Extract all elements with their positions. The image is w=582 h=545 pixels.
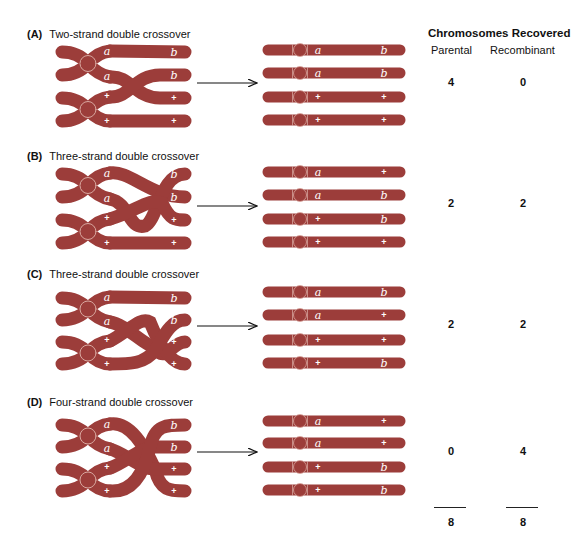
gene-allele-label: a	[104, 167, 111, 180]
wildtype-allele-label: +	[171, 116, 176, 126]
tetrad-diagram-b	[62, 173, 185, 243]
tetrad-diagram-a	[62, 51, 185, 121]
gene-allele-label: b	[380, 189, 387, 202]
gene-allele-label: a	[315, 309, 322, 322]
product-chromosome: a+	[268, 309, 400, 323]
gene-allele-label: b	[380, 286, 387, 299]
gene-allele-label: a	[104, 315, 111, 328]
wildtype-allele-label: +	[315, 214, 320, 224]
product-chromosome: ++	[268, 91, 400, 104]
wildtype-allele-label: +	[171, 464, 176, 474]
wildtype-allele-label: +	[171, 486, 176, 496]
gene-allele-label: b	[380, 357, 387, 370]
wildtype-allele-label: +	[315, 92, 320, 102]
wildtype-allele-label: +	[315, 485, 320, 495]
product-chromosome: a+	[268, 437, 400, 451]
wildtype-allele-label: +	[171, 93, 176, 103]
wildtype-allele-label: +	[104, 462, 109, 472]
gene-allele-label: a	[315, 437, 322, 450]
product-chromosome: ab	[268, 67, 400, 81]
wildtype-allele-label: +	[381, 237, 386, 247]
gene-allele-label: b	[170, 168, 177, 181]
product-chromosome: +b	[268, 357, 400, 371]
gene-allele-label: b	[170, 46, 177, 59]
gene-allele-label: b	[170, 69, 177, 82]
gene-allele-label: a	[104, 291, 111, 304]
crossover-figure: abab++++a+ab+b++aba++++ba+a++b+b aa++bb+…	[0, 0, 582, 545]
gene-allele-label: b	[170, 191, 177, 204]
product-chromosome: a+	[268, 415, 400, 429]
wildtype-allele-label: +	[315, 358, 320, 368]
product-chromosome: +b	[268, 461, 400, 475]
centromere-icon	[80, 345, 96, 361]
product-chromosome: +b	[268, 484, 400, 498]
wildtype-allele-label: +	[381, 92, 386, 102]
wildtype-allele-label: +	[381, 335, 386, 345]
wildtype-allele-label: +	[104, 359, 109, 369]
gene-allele-label: a	[315, 166, 322, 179]
wildtype-allele-label: +	[104, 335, 109, 345]
gene-allele-label: a	[104, 418, 111, 431]
product-chromosome: a+	[268, 166, 400, 180]
centromere-icon	[80, 56, 96, 72]
wildtype-allele-label: +	[381, 438, 386, 448]
product-chromosome: ab	[268, 286, 400, 300]
gene-allele-label: b	[380, 67, 387, 80]
product-chromosome: +b	[268, 213, 400, 227]
gene-allele-label: a	[315, 44, 322, 57]
product-chromosome: ++	[268, 114, 400, 127]
tetrad-diagram-c	[62, 297, 185, 364]
centromere-icon	[80, 301, 96, 317]
gene-allele-label: a	[315, 286, 322, 299]
centromere-icon	[80, 102, 96, 118]
gene-allele-label: a	[104, 192, 111, 205]
wildtype-allele-label: +	[315, 335, 320, 345]
gene-allele-label: b	[380, 213, 387, 226]
wildtype-allele-label: +	[171, 215, 176, 225]
wildtype-allele-label: +	[315, 115, 320, 125]
wildtype-allele-label: +	[381, 167, 386, 177]
product-chromosome: ++	[268, 334, 400, 347]
gene-allele-label: a	[104, 45, 111, 58]
gene-allele-label: b	[170, 314, 177, 327]
wildtype-allele-label: +	[381, 416, 386, 426]
wildtype-allele-label: +	[104, 91, 109, 101]
wildtype-allele-label: +	[381, 310, 386, 320]
product-chromosome: ab	[268, 189, 400, 203]
centromere-icon	[80, 428, 96, 444]
gene-allele-label: a	[315, 189, 322, 202]
gene-allele-label: a	[104, 442, 111, 455]
wildtype-allele-label: +	[104, 486, 109, 496]
gene-allele-label: b	[380, 484, 387, 497]
wildtype-allele-label: +	[171, 238, 176, 248]
wildtype-allele-label: +	[381, 115, 386, 125]
wildtype-allele-label: +	[171, 359, 176, 369]
centromere-icon	[80, 178, 96, 194]
wildtype-allele-label: +	[104, 213, 109, 223]
product-chromosome: ab	[268, 44, 400, 58]
gene-allele-label: a	[315, 415, 322, 428]
wildtype-allele-label: +	[315, 462, 320, 472]
tetrad-diagram-d	[62, 424, 185, 491]
wildtype-allele-label: +	[315, 237, 320, 247]
wildtype-allele-label: +	[104, 116, 109, 126]
gene-allele-label: b	[380, 461, 387, 474]
wildtype-allele-label: +	[171, 337, 176, 347]
product-chromosome: ++	[268, 236, 400, 249]
gene-allele-label: b	[170, 441, 177, 454]
gene-allele-label: a	[315, 67, 322, 80]
centromere-icon	[80, 224, 96, 240]
centromere-icon	[80, 472, 96, 488]
gene-allele-label: b	[170, 419, 177, 432]
gene-allele-label: b	[380, 44, 387, 57]
gene-allele-label: b	[170, 292, 177, 305]
wildtype-allele-label: +	[104, 238, 109, 248]
gene-allele-label: a	[104, 70, 111, 83]
